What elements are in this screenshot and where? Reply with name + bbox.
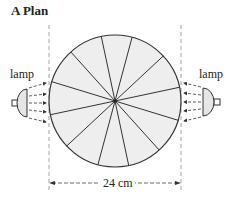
right-lamp-icon (203, 88, 220, 116)
center-dot (114, 100, 117, 103)
right-lamp-label: lamp (199, 67, 223, 82)
dimension-label: 24 cm (101, 176, 135, 191)
left-light-arrows (29, 83, 46, 122)
diagram-stage: A Plan lamp lamp 24 cm (0, 0, 227, 199)
right-light-arrows (184, 83, 201, 121)
dimension-arrow-left-icon (49, 181, 55, 185)
plan-diagram (0, 0, 227, 199)
left-lamp-icon (12, 89, 27, 117)
left-lamp-label: lamp (10, 67, 34, 82)
diagram-title: A Plan (11, 3, 48, 19)
dimension-arrow-right-icon (175, 181, 181, 185)
